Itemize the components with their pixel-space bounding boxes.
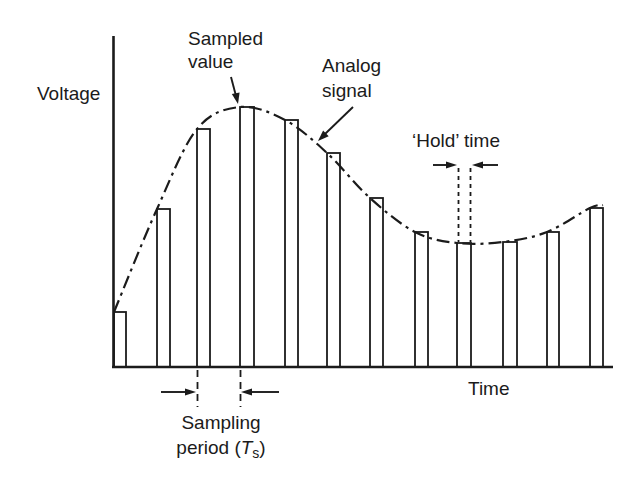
hold-time-left-arrowhead-icon: [446, 162, 457, 169]
sample-bar: [285, 120, 298, 367]
sampling-period-suffix: ): [259, 437, 265, 458]
sample-bar: [197, 129, 210, 367]
sample-bar: [114, 312, 126, 367]
hold-time-annotation: ‘Hold’ time: [412, 130, 500, 242]
sampling-period-label-line2: period (Ts): [176, 437, 265, 461]
sample-bar: [590, 208, 603, 367]
sampled-value-arrowhead-icon: [232, 92, 240, 104]
sample-bar: [370, 198, 383, 367]
sampling-period-annotation: Sampling period (Ts): [161, 370, 279, 461]
sampling-figure: Voltage Time Sampled value Analog signal…: [0, 0, 634, 485]
sampled-value-label-line1: Sampled: [188, 28, 263, 49]
hold-time-right-arrowhead-icon: [472, 162, 483, 169]
analog-signal-label-line2: signal: [322, 80, 372, 101]
analog-signal-label-line1: Analog: [322, 55, 381, 76]
sample-bar: [503, 242, 517, 367]
sample-bar: [547, 232, 559, 367]
hold-time-label: ‘Hold’ time: [412, 130, 500, 151]
sample-bar: [157, 209, 170, 367]
analog-signal-annotation: Analog signal: [318, 55, 381, 141]
y-axis-label: Voltage: [37, 83, 100, 104]
sampled-signal-plot: Voltage Time Sampled value Analog signal…: [0, 0, 634, 485]
sample-bar: [240, 107, 254, 367]
sampled-value-annotation: Sampled value: [188, 28, 263, 104]
sample-bar: [327, 153, 340, 367]
sampling-period-subscript: s: [252, 445, 259, 461]
analog-signal-curve: [114, 107, 603, 312]
analog-signal-arrow-line: [325, 107, 353, 134]
sampling-period-left-arrowhead-icon: [185, 389, 196, 396]
sampled-value-arrow-line: [231, 77, 236, 96]
sample-bar: [457, 243, 471, 367]
sampling-period-label-line1: Sampling: [181, 412, 260, 433]
sample-bar: [415, 232, 428, 367]
x-axis-label: Time: [468, 378, 510, 399]
sampling-period-right-arrowhead-icon: [241, 389, 252, 396]
sampled-value-label-line2: value: [188, 51, 233, 72]
sample-bars: [114, 107, 603, 367]
sampling-period-prefix: period (: [176, 437, 241, 458]
